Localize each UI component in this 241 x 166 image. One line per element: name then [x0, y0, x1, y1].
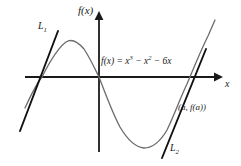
equation-minus-2: −: [154, 56, 160, 66]
y-axis: [95, 11, 104, 152]
x-axis-arrowhead: [214, 73, 223, 82]
equation-term2-exponent: 2: [148, 54, 151, 61]
tangent-label-l1-subscript: 1: [44, 26, 47, 33]
cubic-function-tangent-diagram: f(x) x L1 L2 f(x) = x3 − x2 − 6x (a, f(a…: [0, 0, 241, 166]
equation-term1-exponent: 3: [130, 54, 133, 61]
equation-minus-1: −: [135, 56, 141, 66]
equation-equals: =: [117, 56, 123, 66]
tangent-label-l2-subscript: 2: [176, 148, 179, 155]
x-axis-label: x: [225, 79, 229, 89]
y-axis-arrowhead: [95, 11, 104, 20]
cubic-curve: [25, 20, 215, 148]
y-axis-label: f(x): [78, 5, 93, 16]
tangent-label-l1: L1: [38, 21, 47, 34]
point-label-a-fa: (a, f(a)): [178, 103, 206, 112]
tangent-label-l2: L2: [170, 143, 179, 156]
function-equation-label: f(x) = x3 − x2 − 6x: [101, 55, 172, 67]
figure-canvas: [0, 0, 241, 166]
tangent-line-l1: [20, 31, 58, 131]
equation-term3: 6x: [163, 56, 172, 66]
equation-lhs: f(x): [101, 56, 114, 66]
